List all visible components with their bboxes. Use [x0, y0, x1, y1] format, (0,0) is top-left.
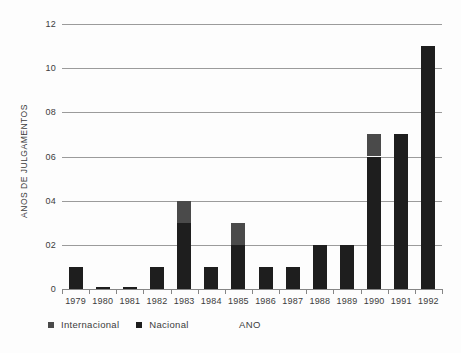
x-axis-tick	[171, 290, 172, 294]
legend-label-nacional: Nacional	[149, 320, 188, 330]
bar-1990-internacional	[367, 134, 381, 156]
x-axis-tick	[252, 290, 253, 294]
y-axis-tick-label: 06	[28, 153, 56, 162]
bar-1984-nacional	[204, 267, 218, 289]
x-axis-tick	[333, 290, 334, 294]
bar-1980-zero-sliver	[96, 287, 110, 289]
legend-item-nacional: Nacional	[136, 320, 188, 330]
bar-1981-zero-sliver	[123, 287, 137, 289]
bar-1985-nacional	[231, 245, 245, 289]
y-axis-tick-label: 10	[28, 64, 56, 73]
bar-1990-nacional	[367, 157, 381, 290]
x-axis-tick-label: 1982	[143, 296, 170, 306]
x-axis-tick	[198, 290, 199, 294]
x-axis-tick-label: 1979	[62, 296, 89, 306]
x-axis-tick	[89, 290, 90, 294]
gridline-y6	[62, 157, 442, 158]
y-axis-tick-label: 02	[28, 241, 56, 250]
x-axis-tick-label: 1984	[198, 296, 225, 306]
bar-1982-nacional	[150, 267, 164, 289]
x-axis-tick	[361, 290, 362, 294]
bar-1985-internacional	[231, 223, 245, 245]
y-axis-tick-label: 04	[28, 197, 56, 206]
x-axis-tick-label: 1988	[306, 296, 333, 306]
x-axis-tick-label: 1985	[225, 296, 252, 306]
plot-area: 0020406081012197919821983198419851986198…	[0, 0, 461, 353]
x-axis-tick-label: 1992	[415, 296, 442, 306]
gridline-y8	[62, 112, 442, 113]
x-axis-tick	[279, 290, 280, 294]
bar-1988-nacional	[313, 245, 327, 289]
x-axis-tick-label: 1989	[333, 296, 360, 306]
x-axis-tick	[415, 290, 416, 294]
gridline-y12	[62, 24, 442, 25]
x-axis-tick	[62, 290, 63, 294]
legend: InternacionalNacional	[48, 320, 189, 330]
gridline-y4	[62, 201, 442, 202]
x-axis-tick	[225, 290, 226, 294]
gridline-y10	[62, 68, 442, 69]
legend-item-internacional: Internacional	[48, 320, 119, 330]
x-axis-tick-label: 1987	[279, 296, 306, 306]
bar-1992-nacional	[421, 46, 435, 289]
x-axis-tick-label: 1981	[116, 296, 143, 306]
bar-1987-nacional	[286, 267, 300, 289]
legend-swatch-internacional	[48, 322, 54, 328]
bar-1991-nacional	[394, 134, 408, 289]
bar-1989-nacional	[340, 245, 354, 289]
bar-1986-nacional	[259, 267, 273, 289]
bar-1983-nacional	[177, 223, 191, 289]
legend-label-internacional: Internacional	[61, 320, 119, 330]
y-axis-tick-label: 08	[28, 108, 56, 117]
x-axis-tick	[116, 290, 117, 294]
x-axis-title: ANO	[200, 319, 300, 330]
x-axis-tick-label: 1980	[89, 296, 116, 306]
y-axis-title: ANOS DE JULGAMENTOS	[19, 101, 29, 221]
legend-swatch-nacional	[136, 322, 142, 328]
bar-1979-nacional	[69, 267, 83, 289]
x-axis-tick-label: 1986	[252, 296, 279, 306]
gridline-y2	[62, 245, 442, 246]
x-axis-tick-label: 1983	[171, 296, 198, 306]
x-axis-tick-label: 1990	[361, 296, 388, 306]
x-axis-tick	[442, 290, 443, 294]
y-axis-tick-label: 0	[28, 285, 56, 294]
x-axis-tick-label: 1991	[388, 296, 415, 306]
chart: 0020406081012197919821983198419851986198…	[0, 0, 461, 353]
x-axis-tick	[143, 290, 144, 294]
bar-1983-internacional	[177, 201, 191, 223]
y-axis-tick-label: 12	[28, 20, 56, 29]
x-axis-tick	[306, 290, 307, 294]
x-axis-tick	[388, 290, 389, 294]
